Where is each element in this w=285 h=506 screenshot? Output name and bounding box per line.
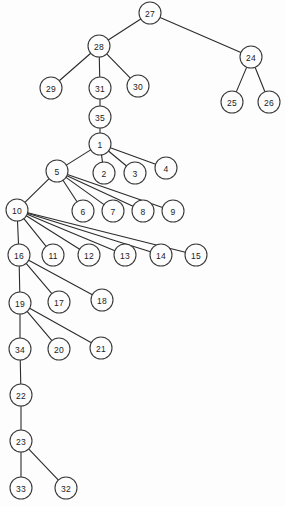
- node-label: 15: [191, 251, 201, 261]
- node-label: 2: [102, 169, 107, 179]
- tree-node[interactable]: 14: [150, 244, 172, 266]
- tree-node[interactable]: 16: [8, 244, 30, 266]
- tree-edge: [17, 221, 18, 244]
- node-label: 20: [54, 345, 64, 355]
- tree-edge: [255, 67, 265, 92]
- node-label: 12: [84, 251, 94, 261]
- tree-node[interactable]: 24: [240, 46, 262, 68]
- tree-edge: [27, 311, 52, 340]
- tree-node[interactable]: 1: [89, 133, 111, 155]
- node-label: 5: [55, 167, 60, 177]
- tree-node[interactable]: 31: [89, 77, 111, 99]
- tree-node[interactable]: 4: [155, 157, 177, 179]
- tree-edge: [19, 266, 20, 292]
- tree-edge: [236, 67, 246, 92]
- tree-edge: [20, 360, 21, 384]
- tree-node[interactable]: 9: [162, 200, 184, 222]
- tree-edge: [26, 263, 52, 293]
- tree-node[interactable]: 29: [40, 77, 62, 99]
- node-label: 1: [98, 140, 103, 150]
- tree-node[interactable]: 34: [9, 338, 31, 360]
- node-label: 14: [156, 251, 166, 261]
- tree-edge: [29, 449, 59, 480]
- node-label: 7: [111, 207, 116, 217]
- tree-edge: [24, 219, 46, 247]
- node-label: 10: [12, 206, 22, 216]
- tree-node[interactable]: 28: [88, 35, 110, 57]
- node-label: 22: [16, 391, 26, 401]
- node-label: 35: [95, 113, 105, 123]
- tree-node[interactable]: 22: [10, 384, 32, 406]
- node-label: 34: [15, 345, 25, 355]
- tree-node[interactable]: 6: [72, 200, 94, 222]
- node-label: 31: [95, 84, 105, 94]
- node-label: 24: [246, 53, 256, 63]
- tree-node[interactable]: 25: [221, 91, 243, 113]
- tree-node[interactable]: 21: [90, 337, 112, 359]
- node-label: 11: [48, 251, 57, 261]
- node-label: 27: [145, 9, 155, 19]
- tree-graph-svg: 2728242931302526351523410678916111213141…: [0, 0, 285, 506]
- tree-node[interactable]: 33: [10, 477, 32, 499]
- node-label: 16: [14, 251, 24, 261]
- node-label: 6: [81, 207, 86, 217]
- tree-edge: [160, 17, 241, 52]
- node-label: 30: [133, 82, 143, 92]
- node-label: 28: [94, 42, 104, 52]
- tree-edge: [27, 214, 115, 251]
- tree-node[interactable]: 17: [48, 291, 70, 313]
- node-label: 21: [96, 344, 106, 354]
- tree-node[interactable]: 11: [42, 244, 64, 266]
- node-label: 9: [171, 207, 176, 217]
- node-label: 19: [15, 299, 25, 309]
- tree-edge: [59, 53, 90, 81]
- node-label: 26: [264, 98, 274, 108]
- tree-edge: [108, 19, 141, 40]
- tree-edge: [25, 179, 49, 203]
- tree-node[interactable]: 32: [55, 477, 77, 499]
- node-label: 32: [61, 484, 71, 494]
- tree-node[interactable]: 26: [258, 91, 280, 113]
- node-label: 8: [141, 207, 146, 217]
- nodes-layer: 2728242931302526351523410678916111213141…: [6, 2, 280, 499]
- tree-node[interactable]: 15: [185, 244, 207, 266]
- node-label: 23: [16, 437, 26, 447]
- node-label: 29: [46, 84, 56, 94]
- tree-node[interactable]: 20: [48, 338, 70, 360]
- tree-edge: [108, 151, 126, 166]
- tree-node[interactable]: 10: [6, 199, 28, 221]
- tree-edge: [102, 155, 103, 162]
- tree-node[interactable]: 18: [91, 289, 113, 311]
- tree-node[interactable]: 12: [78, 244, 100, 266]
- node-label: 13: [120, 251, 130, 261]
- node-label: 25: [227, 98, 237, 108]
- tree-node[interactable]: 27: [139, 2, 161, 24]
- tree-node[interactable]: 2: [93, 162, 115, 184]
- tree-node[interactable]: 7: [102, 200, 124, 222]
- tree-diagram-canvas: 2728242931302526351523410678916111213141…: [0, 0, 285, 506]
- tree-node[interactable]: 19: [9, 292, 31, 314]
- tree-node[interactable]: 35: [89, 106, 111, 128]
- node-label: 4: [164, 164, 169, 174]
- node-label: 33: [16, 484, 26, 494]
- tree-node[interactable]: 23: [10, 430, 32, 452]
- tree-node[interactable]: 5: [46, 160, 68, 182]
- node-label: 18: [97, 296, 107, 306]
- node-label: 3: [133, 169, 138, 179]
- tree-edge: [66, 150, 90, 165]
- tree-edge: [107, 54, 131, 78]
- node-label: 17: [54, 298, 64, 308]
- tree-node[interactable]: 30: [127, 75, 149, 97]
- tree-node[interactable]: 3: [124, 162, 146, 184]
- tree-node[interactable]: 8: [132, 200, 154, 222]
- tree-node[interactable]: 13: [114, 244, 136, 266]
